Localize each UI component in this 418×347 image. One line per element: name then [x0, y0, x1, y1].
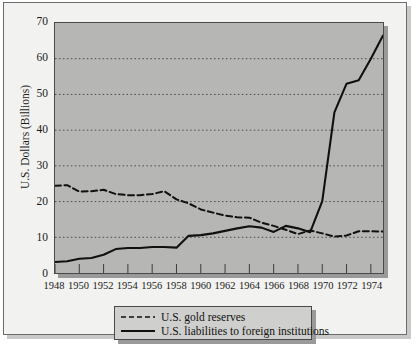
plot-area	[54, 22, 384, 274]
legend-label-gold-reserves: U.S. gold reserves	[161, 311, 245, 323]
solid-line-swatch-icon	[121, 326, 155, 336]
y-axis-tick-70: 70	[22, 16, 48, 27]
y-axis-tick-60: 60	[22, 52, 48, 63]
y-axis-tick-30: 30	[22, 160, 48, 171]
chart-svg	[55, 23, 383, 273]
y-axis-tick-40: 40	[22, 124, 48, 135]
y-axis-tick-0: 0	[22, 268, 48, 279]
y-axis-tick-20: 20	[22, 196, 48, 207]
dashed-line-swatch-icon	[121, 312, 155, 322]
legend-item-liabilities: U.S. liabilities to foreign institutions	[121, 324, 311, 338]
x-axis-tick-1974: 1974	[355, 280, 389, 291]
y-axis-tick-50: 50	[22, 88, 48, 99]
legend-label-liabilities: U.S. liabilities to foreign institutions	[161, 325, 329, 337]
legend-item-gold-reserves: U.S. gold reserves	[121, 310, 311, 324]
y-axis-tick-10: 10	[22, 232, 48, 243]
chart-legend: U.S. gold reserves U.S. liabilities to f…	[114, 306, 312, 340]
chart-figure: U.S. Dollars (Billions) 010203040506070 …	[3, 2, 407, 335]
